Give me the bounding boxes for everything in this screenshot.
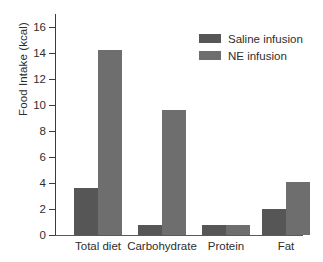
x-axis-category-label: Carbohydrate: [127, 240, 197, 252]
y-axis-tick-mark: [49, 53, 55, 54]
y-axis-tick-label: 10: [33, 99, 46, 111]
x-axis-category-label: Total diet: [75, 240, 121, 252]
bar: [162, 110, 186, 235]
y-axis-tick-label: 4: [40, 177, 46, 189]
legend-swatch-icon: [199, 51, 221, 60]
legend-item: NE infusion: [199, 48, 303, 63]
legend-label: NE infusion: [228, 50, 287, 62]
bar: [202, 225, 226, 235]
y-axis-tick-mark: [49, 27, 55, 28]
y-axis-tick-mark: [49, 157, 55, 158]
y-axis-tick-mark: [49, 105, 55, 106]
y-axis-tick-label: 14: [33, 47, 46, 59]
y-axis-tick-mark: [49, 131, 55, 132]
y-axis-tick-mark: [49, 209, 55, 210]
bar: [98, 50, 122, 235]
y-axis-tick-label: 0: [40, 229, 46, 241]
y-axis-tick-label: 16: [33, 21, 46, 33]
bar: [286, 182, 310, 235]
y-axis-line: [55, 14, 56, 236]
y-axis-tick-mark: [49, 235, 55, 236]
y-axis-tick-mark: [49, 183, 55, 184]
y-axis-title: Food Intake (kcal): [14, 0, 32, 144]
bar: [226, 225, 250, 235]
y-axis-tick-label: 8: [40, 125, 46, 137]
y-axis-tick-mark: [49, 79, 55, 80]
legend-swatch-icon: [199, 34, 221, 43]
y-axis-tick-label: 2: [40, 203, 46, 215]
bar: [262, 209, 286, 235]
bar: [74, 188, 98, 235]
x-axis-line: [55, 235, 303, 236]
bar: [138, 225, 162, 235]
bar-chart: Food Intake (kcal) 0246810121416 Total d…: [0, 0, 323, 262]
x-axis-category-label: Fat: [278, 240, 295, 252]
legend-label: Saline infusion: [228, 33, 303, 45]
y-axis-tick-label: 6: [40, 151, 46, 163]
bar-group: [74, 14, 122, 235]
chart-legend: Saline infusionNE infusion: [199, 31, 303, 65]
bar-group: [138, 14, 186, 235]
x-axis-category-label: Protein: [208, 240, 244, 252]
legend-item: Saline infusion: [199, 31, 303, 46]
y-axis-tick-label: 12: [33, 73, 46, 85]
